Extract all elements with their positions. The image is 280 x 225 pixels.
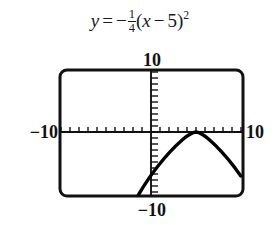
- equation-equals: =: [99, 10, 116, 31]
- equation-inner-var: x: [142, 10, 150, 31]
- axis-label-left: −10: [14, 123, 58, 141]
- equation-lhs: y: [91, 10, 99, 31]
- fraction-denominator: 4: [128, 22, 136, 35]
- equation-inner-op: −: [151, 10, 168, 31]
- axis-label-top: 10: [132, 51, 172, 69]
- equation-inner-const: 5: [167, 10, 177, 31]
- equation-caption: y=−14(x−5)2: [0, 8, 280, 35]
- fraction-numerator: 1: [128, 8, 136, 22]
- equation-exponent: 2: [183, 9, 189, 22]
- axis-label-right: 10: [246, 123, 280, 141]
- equation-leading-sign: −: [116, 10, 128, 31]
- axis-label-bottom: −10: [131, 201, 173, 219]
- equation-fraction: 14: [128, 8, 136, 35]
- graph-container: 10 −10 10 −10: [0, 45, 280, 225]
